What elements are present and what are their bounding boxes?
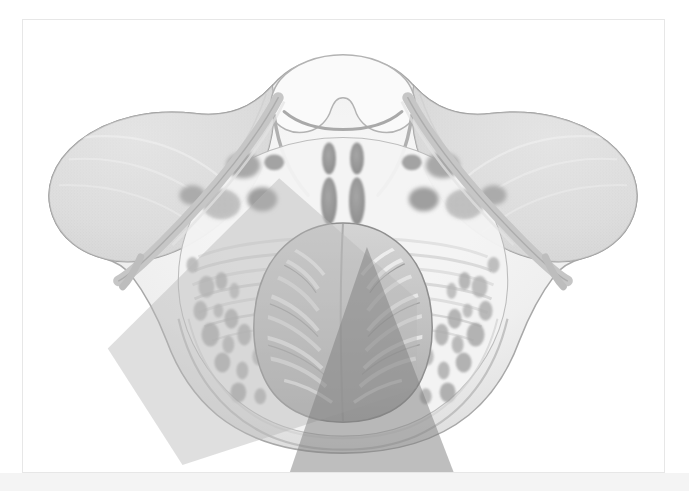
page-bottom-strip [0, 473, 689, 491]
page-root: Axial cross-section of pons, cerebellum … [0, 0, 689, 491]
anatomical-illustration: Axial cross-section of pons, cerebellum … [23, 20, 664, 472]
figure-panel: Axial cross-section of pons, cerebellum … [22, 19, 665, 473]
figure-stage: Axial cross-section of pons, cerebellum … [23, 20, 664, 472]
